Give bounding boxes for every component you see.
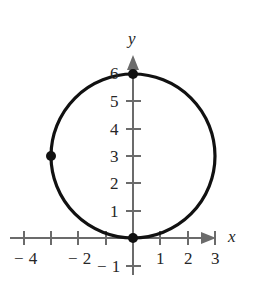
x-label-minus2: − 2 — [68, 250, 92, 267]
graph-figure: − 4 − 2 1 2 3 6 5 4 3 2 1 − 1 y x — [0, 0, 257, 287]
y-label-minus1: − 1 — [97, 258, 121, 275]
point-origin — [128, 233, 138, 243]
y-label-plus3: 3 — [110, 148, 119, 165]
x-label-plus1: 1 — [156, 250, 165, 267]
y-label-plus2: 2 — [110, 175, 119, 192]
point-top — [128, 69, 138, 79]
x-label-plus2: 2 — [184, 250, 193, 267]
y-label-plus1: 1 — [110, 203, 119, 220]
y-axis-arrow — [127, 55, 139, 70]
x-axis-arrow — [201, 232, 216, 244]
y-label-plus5: 5 — [110, 93, 119, 110]
y-label-plus6: 6 — [110, 65, 119, 82]
x-label-plus3: 3 — [211, 250, 220, 267]
x-label-minus4: − 4 — [14, 250, 38, 267]
y-label-plus4: 4 — [110, 121, 119, 138]
x-axis-label: x — [228, 228, 236, 245]
point-left — [46, 151, 56, 161]
y-axis-label: y — [128, 30, 136, 47]
